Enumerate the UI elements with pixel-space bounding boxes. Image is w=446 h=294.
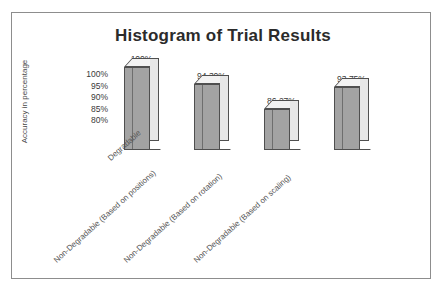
y-tick-label: 90% bbox=[68, 92, 108, 104]
y-tick-label: 85% bbox=[68, 104, 108, 116]
bar-group: 93.75% bbox=[334, 87, 369, 150]
bar-bottom-edge bbox=[219, 140, 239, 150]
y-tick-label: 95% bbox=[68, 81, 108, 93]
bar-non-degradable-positions[interactable] bbox=[194, 84, 229, 150]
bar-bottom-edge bbox=[359, 140, 379, 150]
bar-non-degradable-rotation[interactable] bbox=[264, 109, 299, 150]
y-axis-tick-labels: 100% 95% 90% 85% 80% bbox=[68, 69, 108, 127]
y-axis-title: Accuracy in percentage bbox=[20, 47, 29, 157]
bar-front-face bbox=[194, 84, 220, 150]
plot-area: 100% 94.30% 86.27% bbox=[112, 52, 412, 150]
bar-bottom-edge bbox=[289, 140, 309, 150]
bar-side-face bbox=[220, 75, 229, 141]
y-tick-label: 100% bbox=[68, 69, 108, 81]
bar-group: 86.27% bbox=[264, 109, 299, 150]
bar-bottom-edge bbox=[149, 140, 169, 150]
bar-side-face bbox=[360, 78, 369, 141]
chart-figure: Histogram of Trial Results Accuracy in p… bbox=[0, 0, 446, 294]
bar-front-face bbox=[334, 87, 360, 150]
bar-side-face bbox=[150, 58, 159, 141]
bar-non-degradable-scaling[interactable] bbox=[334, 87, 369, 150]
bar-side-face bbox=[290, 100, 299, 141]
chart-title: Histogram of Trial Results bbox=[0, 26, 446, 46]
y-tick-label: 80% bbox=[68, 115, 108, 127]
bar-front-face bbox=[264, 109, 290, 150]
bar-group: 94.30% bbox=[194, 84, 229, 150]
